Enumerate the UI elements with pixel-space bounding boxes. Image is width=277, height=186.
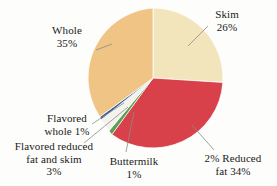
pie-label-buttermilk-line1: Buttermilk (96, 155, 172, 168)
pie-chart-figure: Skim 26% Whole 35% 2% Reduced fat 34% Fl… (0, 0, 277, 186)
pie-label-flavored-reduced-fat-and-skim: Flavored reduced fat and skim 3% (0, 140, 108, 178)
pie-label-2-percent-reduced-fat-line1: 2% Reduced (192, 152, 274, 165)
pie-label-buttermilk: Buttermilk 1% (96, 155, 172, 180)
pie-label-2-percent-reduced-fat-line2: fat 34% (192, 165, 274, 178)
pie-label-2-percent-reduced-fat: 2% Reduced fat 34% (192, 152, 274, 177)
pie-label-skim-line1: Skim (196, 8, 258, 21)
leader-line-2-percent-reduced-fat (192, 125, 214, 150)
pie-label-whole-line1: Whole (36, 24, 98, 37)
pie-label-whole: Whole 35% (36, 24, 98, 49)
pie-label-skim-line2: 26% (196, 21, 258, 34)
pie-label-flavored-whole-line2: whole 1% (28, 125, 106, 138)
pie-label-skim: Skim 26% (196, 8, 258, 33)
pie-label-flavored-whole: Flavored whole 1% (28, 112, 106, 137)
pie-label-flavored-reduced-fat-and-skim-line2: fat and skim (0, 153, 108, 166)
pie-label-whole-line2: 35% (36, 37, 98, 50)
pie-label-flavored-whole-line1: Flavored (28, 112, 106, 125)
pie-label-flavored-reduced-fat-and-skim-line1: Flavored reduced (0, 140, 108, 153)
pie-label-flavored-reduced-fat-and-skim-line3: 3% (0, 165, 108, 178)
pie-label-buttermilk-line2: 1% (96, 168, 172, 181)
